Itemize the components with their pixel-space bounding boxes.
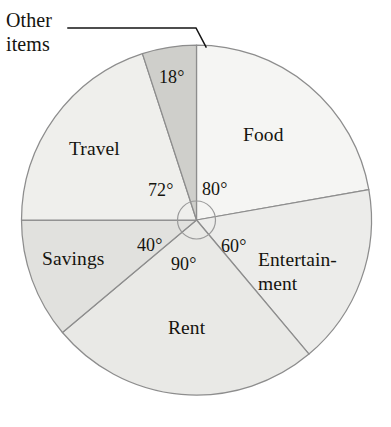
angle-label-entertainment: 60° — [221, 237, 247, 256]
pie-chart-svg — [0, 0, 391, 427]
angle-label-food: 80° — [202, 180, 228, 199]
slice-label-entertainment: Entertain- ment — [258, 248, 378, 296]
pie-sectors — [22, 45, 372, 395]
slice-label-entertainment-line1: Entertain- — [258, 248, 378, 272]
other-items-callout-line2: items — [6, 32, 126, 56]
angle-label-savings: 40° — [137, 236, 163, 255]
slice-label-travel: Travel — [69, 139, 120, 160]
angle-label-rent: 90° — [171, 255, 197, 274]
slice-label-savings: Savings — [42, 249, 104, 270]
slice-label-rent: Rent — [168, 318, 205, 339]
slice-label-entertainment-line2: ment — [258, 272, 378, 296]
angle-label-travel: 72° — [148, 181, 174, 200]
other-items-callout-label: Other items — [6, 8, 126, 57]
other-items-callout-line1: Other — [6, 8, 126, 32]
slice-label-food: Food — [243, 125, 284, 146]
pie-chart: Other items Food Entertain- ment Rent Sa… — [0, 0, 391, 427]
angle-label-other-items: 18° — [159, 68, 185, 87]
